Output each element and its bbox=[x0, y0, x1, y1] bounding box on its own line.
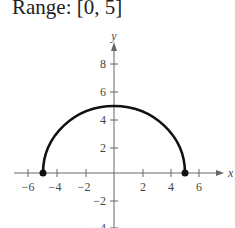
x-tick-label: −2 bbox=[78, 180, 91, 194]
x-tick-label: 2 bbox=[140, 180, 146, 194]
x-tick-label: 6 bbox=[196, 180, 202, 194]
x-axis: −6 −4 −2 2 4 6 x bbox=[14, 166, 234, 194]
x-tick-label: 4 bbox=[168, 180, 174, 194]
y-tick-label: 2 bbox=[100, 141, 106, 155]
x-tick-label: −6 bbox=[22, 180, 35, 194]
y-axis: 8 6 4 2 −2 −4 y bbox=[93, 29, 118, 228]
x-axis-arrow-icon bbox=[216, 170, 224, 176]
y-tick-label: 8 bbox=[100, 57, 106, 71]
y-tick-label: −2 bbox=[93, 194, 106, 208]
x-axis-label: x bbox=[227, 166, 234, 180]
y-tick-label: −4 bbox=[93, 221, 106, 228]
x-tick-label: −4 bbox=[49, 180, 62, 194]
semicircle-graph: −6 −4 −2 2 4 6 x 8 6 4 2 −2 −4 y bbox=[0, 0, 235, 228]
right-endpoint-dot bbox=[182, 170, 189, 177]
y-tick-label: 6 bbox=[100, 85, 106, 99]
y-axis-arrow-icon bbox=[111, 42, 117, 51]
y-tick-label: 4 bbox=[100, 113, 106, 127]
left-endpoint-dot bbox=[40, 170, 47, 177]
y-axis-label: y bbox=[110, 29, 117, 43]
